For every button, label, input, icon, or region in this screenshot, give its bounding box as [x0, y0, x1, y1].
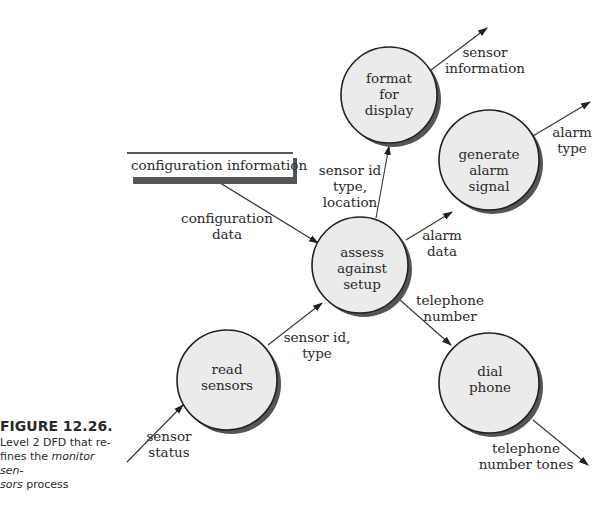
data-store-configuration-information[interactable]: configuration information	[127, 153, 307, 184]
svg-text:location: location	[323, 194, 378, 210]
process-dial-phone[interactable]: dial phone	[439, 333, 543, 437]
flow-label-sensor-status: sensor status	[146, 428, 192, 460]
svg-text:telephone: telephone	[492, 440, 560, 456]
svg-text:sensor: sensor	[146, 428, 192, 444]
process-generate-alarm-signal[interactable]: generate alarm signal	[439, 110, 543, 214]
caption-line-2: fines the monitor sen-	[0, 450, 118, 478]
process-label-line1: assess	[340, 244, 384, 260]
svg-text:type: type	[557, 140, 587, 156]
process-label-line1: dial	[477, 363, 502, 379]
process-format-for-display[interactable]: format for display	[341, 47, 441, 147]
process-label-line2: sensors	[201, 377, 253, 393]
figure-title: FIGURE 12.26.	[0, 418, 112, 434]
flow-label-sensor-id-type: sensor id, type	[284, 329, 351, 361]
process-label-line3: display	[365, 102, 414, 118]
caption-line-1: Level 2 DFD that re-	[0, 436, 118, 450]
svg-text:sensor id,: sensor id,	[284, 329, 351, 345]
svg-text:telephone: telephone	[416, 292, 484, 308]
flow-label-sensor-information: sensor information	[445, 44, 525, 76]
process-label-line2: for	[379, 86, 399, 102]
flow-label-configuration-data: configuration data	[181, 210, 273, 242]
process-label-line2: phone	[469, 379, 511, 395]
svg-text:number tones: number tones	[479, 456, 574, 472]
process-read-sensors[interactable]: read sensors	[177, 330, 281, 434]
process-label-line2: alarm	[469, 162, 509, 178]
flow-label-telephone-number: telephone number	[416, 292, 484, 324]
svg-text:data: data	[427, 243, 457, 259]
process-label-line1: read	[211, 361, 242, 377]
process-label-line2: against	[337, 260, 388, 276]
svg-text:status: status	[148, 444, 190, 460]
process-label-line1: format	[366, 70, 412, 86]
process-label-line1: generate	[458, 146, 519, 162]
flow-label-telephone-number-tones: telephone number tones	[479, 440, 574, 472]
arrow-sensor-id-type-location	[376, 146, 389, 218]
process-label-line3: signal	[469, 178, 510, 194]
svg-text:type: type	[302, 345, 332, 361]
svg-text:alarm: alarm	[552, 124, 592, 140]
svg-text:sensor: sensor	[462, 44, 508, 60]
caption-line-3: sors process	[0, 478, 118, 492]
data-store-label: configuration information	[131, 157, 307, 173]
svg-text:alarm: alarm	[422, 227, 462, 243]
svg-text:type,: type,	[333, 178, 367, 194]
svg-text:number: number	[423, 308, 477, 324]
svg-text:configuration: configuration	[181, 210, 273, 226]
svg-text:sensor id: sensor id	[319, 162, 382, 178]
flow-label-sensor-id-type-location: sensor id type, location	[319, 162, 382, 210]
svg-text:data: data	[212, 226, 242, 242]
process-label-line3: setup	[343, 276, 381, 292]
svg-text:information: information	[445, 60, 525, 76]
flow-label-alarm-data: alarm data	[422, 227, 462, 259]
flow-label-alarm-type: alarm type	[552, 124, 592, 156]
figure-caption: Level 2 DFD that re- fines the monitor s…	[0, 436, 118, 492]
process-assess-against-setup[interactable]: assess against setup	[312, 217, 412, 317]
